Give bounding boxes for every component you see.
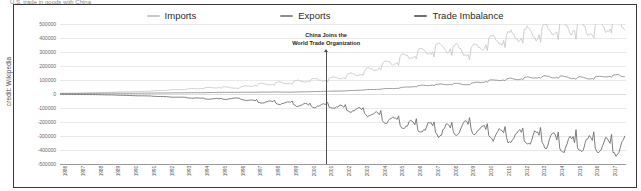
legend-swatch-imports bbox=[147, 15, 160, 17]
x-axis-tick-label: 1986 bbox=[62, 166, 68, 176]
y-axis-tick-label: -200000 bbox=[38, 119, 56, 125]
x-axis-tick-label: 1993 bbox=[186, 166, 192, 176]
x-axis-tick-label: 2016 bbox=[594, 166, 600, 176]
x-axis-tick-label: 2011 bbox=[506, 166, 512, 176]
legend-label-exports: Exports bbox=[298, 10, 330, 21]
series-line-trade-imbalance bbox=[60, 94, 625, 156]
legend-swatch-trade-imbalance bbox=[414, 15, 427, 17]
x-axis-tick-label: 2014 bbox=[559, 166, 565, 176]
x-axis-tick-label: 1987 bbox=[80, 166, 86, 176]
chart-screenshot: U.S. trade in goods with China credit: W… bbox=[0, 0, 641, 191]
x-axis-tick-label: 2008 bbox=[453, 166, 459, 176]
chart-legend: Imports Exports Trade Imbalance bbox=[14, 8, 636, 23]
y-axis-tick-label: -400000 bbox=[38, 147, 56, 153]
x-axis-tick-label: 2007 bbox=[435, 166, 441, 176]
x-axis-tick-label: 2013 bbox=[541, 166, 547, 176]
x-axis-tick-label: 1989 bbox=[115, 166, 121, 176]
y-axis-tick-label: -300000 bbox=[38, 133, 56, 139]
x-axis-tick-label: 1992 bbox=[169, 166, 175, 176]
y-axis-tick-label: -500000 bbox=[38, 161, 56, 167]
y-axis-tick-label: -100000 bbox=[38, 105, 56, 111]
x-axis-tick-label: 2010 bbox=[488, 166, 494, 176]
x-axis-tick-label: 2015 bbox=[577, 166, 583, 176]
series-lines bbox=[60, 24, 626, 164]
y-axis-tick-label: 400000 bbox=[39, 35, 56, 41]
x-axis-tick-label: 2006 bbox=[417, 166, 423, 176]
legend-item-imports[interactable]: Imports bbox=[147, 10, 197, 21]
plot-area: China Joins theWorld Trade Organization bbox=[60, 24, 626, 164]
y-axis-tick-label: 100000 bbox=[39, 77, 56, 83]
x-axis-tick-label: 2012 bbox=[524, 166, 530, 176]
legend-swatch-exports bbox=[280, 15, 293, 17]
x-axis-tick-label: 1990 bbox=[133, 166, 139, 176]
credit-label: credit: Wikipedia bbox=[5, 46, 12, 118]
x-axis-tick-label: 1994 bbox=[204, 166, 210, 176]
y-axis-tick-label: 0 bbox=[53, 91, 56, 97]
legend-label-imports: Imports bbox=[165, 10, 197, 21]
x-axis-tick-label: 2005 bbox=[399, 166, 405, 176]
y-axis-labels: 5000004000003000002000001000000-100000-2… bbox=[14, 24, 58, 164]
series-line-imports bbox=[60, 24, 625, 93]
x-axis-tick-label: 1988 bbox=[98, 166, 104, 176]
y-axis-tick-label: 500000 bbox=[39, 21, 56, 27]
x-axis-tick-label: 2009 bbox=[470, 166, 476, 176]
x-axis-tick-label: 2003 bbox=[364, 166, 370, 176]
x-axis-tick-label: 2002 bbox=[346, 166, 352, 176]
x-axis-tick-label: 2000 bbox=[311, 166, 317, 176]
legend-item-exports[interactable]: Exports bbox=[280, 10, 330, 21]
x-axis-tick-label: 2001 bbox=[328, 166, 334, 176]
series-line-exports bbox=[60, 75, 625, 94]
y-axis-tick-label: 200000 bbox=[39, 63, 56, 69]
series-svg bbox=[60, 24, 626, 164]
y-axis-tick-label: 300000 bbox=[39, 49, 56, 55]
legend-label-trade-imbalance: Trade Imbalance bbox=[432, 10, 503, 21]
x-axis-tick-label: 1998 bbox=[275, 166, 281, 176]
x-axis-tick-label: 1996 bbox=[240, 166, 246, 176]
x-axis-tick-label: 2004 bbox=[382, 166, 388, 176]
x-axis-labels: 1986198719881989199019911992199319941995… bbox=[60, 166, 626, 190]
legend-item-trade-imbalance[interactable]: Trade Imbalance bbox=[414, 10, 503, 21]
x-axis-tick-label: 2017 bbox=[612, 166, 618, 176]
x-axis-tick-label: 1997 bbox=[257, 166, 263, 176]
x-axis-tick-label: 1995 bbox=[222, 166, 228, 176]
chart-panel: Imports Exports Trade Imbalance 50000040… bbox=[13, 4, 637, 188]
x-axis-tick-label: 1999 bbox=[293, 166, 299, 176]
x-axis-tick-label: 1991 bbox=[151, 166, 157, 176]
